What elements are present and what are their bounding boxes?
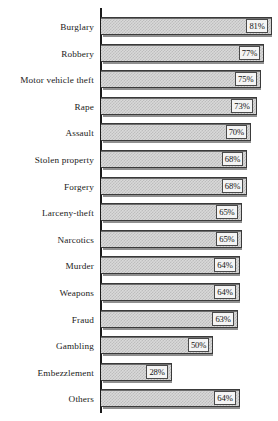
bar-row: Murder64% bbox=[0, 256, 278, 276]
category-label: Narcotics bbox=[57, 234, 94, 245]
category-label: Stolen property bbox=[35, 155, 94, 166]
bar-drop-shadow bbox=[103, 381, 172, 383]
category-label: Robbery bbox=[61, 48, 94, 59]
category-label: Murder bbox=[66, 261, 94, 272]
category-label: Larceny-theft bbox=[42, 208, 94, 219]
bar-value-label: 68% bbox=[222, 179, 243, 193]
category-label: Fraud bbox=[72, 314, 94, 325]
bar-drop-shadow bbox=[103, 168, 247, 170]
bar-row: Assault70% bbox=[0, 123, 278, 143]
bar-track: 81% bbox=[101, 17, 272, 35]
bar-track: 70% bbox=[101, 123, 251, 141]
bar-drop-shadow bbox=[103, 301, 240, 303]
category-label: Others bbox=[69, 394, 94, 405]
bar-track: 63% bbox=[101, 310, 238, 328]
bar-value-label: 70% bbox=[226, 125, 247, 139]
bar-row: Motor vehicle theft75% bbox=[0, 70, 278, 90]
bar-track: 77% bbox=[101, 44, 264, 62]
bar-track: 68% bbox=[101, 177, 247, 195]
bar-row: Gambling50% bbox=[0, 336, 278, 356]
bar-row: Weapons64% bbox=[0, 283, 278, 303]
bar-track: 64% bbox=[101, 283, 240, 301]
bar-drop-shadow bbox=[103, 62, 264, 64]
bar-value-label: 28% bbox=[146, 365, 167, 379]
bar-row: Embezzlement28% bbox=[0, 363, 278, 383]
bar-track: 64% bbox=[101, 389, 240, 407]
bar-track: 64% bbox=[101, 256, 240, 274]
category-label: Assault bbox=[65, 128, 94, 139]
bar-row: Stolen property68% bbox=[0, 150, 278, 170]
bar-drop-shadow bbox=[103, 407, 240, 409]
bar-value-label: 68% bbox=[222, 152, 243, 166]
bar-row: Narcotics65% bbox=[0, 230, 278, 250]
bar-row: Robbery77% bbox=[0, 44, 278, 64]
bar-drop-shadow bbox=[103, 115, 257, 117]
category-label: Motor vehicle theft bbox=[20, 75, 94, 86]
bar-value-label: 64% bbox=[214, 391, 235, 405]
horizontal-bar-chart: Burglary81%Robbery77%Motor vehicle theft… bbox=[0, 0, 278, 421]
bar-value-label: 73% bbox=[231, 99, 252, 113]
category-label: Weapons bbox=[60, 288, 95, 299]
bar-value-label: 63% bbox=[212, 312, 233, 326]
bar-drop-shadow bbox=[103, 35, 272, 37]
bar-value-label: 75% bbox=[235, 72, 256, 86]
bar-row: Fraud63% bbox=[0, 310, 278, 330]
category-label: Rape bbox=[75, 101, 94, 112]
bar-value-label: 81% bbox=[246, 19, 267, 33]
bar-value-label: 65% bbox=[216, 205, 237, 219]
bar-row: Larceny-theft65% bbox=[0, 203, 278, 223]
bar-value-label: 64% bbox=[214, 285, 235, 299]
category-label: Burglary bbox=[60, 22, 94, 33]
bar-track: 28% bbox=[101, 363, 172, 381]
bar-row: Burglary81% bbox=[0, 17, 278, 37]
bar-value-label: 50% bbox=[188, 338, 209, 352]
bar-row: Rape73% bbox=[0, 97, 278, 117]
bar-drop-shadow bbox=[103, 141, 251, 143]
bar-drop-shadow bbox=[103, 274, 240, 276]
category-label: Gambling bbox=[56, 341, 94, 352]
bar-drop-shadow bbox=[103, 221, 242, 223]
bar-value-label: 64% bbox=[214, 258, 235, 272]
bar-track: 50% bbox=[101, 336, 213, 354]
bar-track: 65% bbox=[101, 230, 242, 248]
category-label: Embezzlement bbox=[38, 367, 94, 378]
bar-row: Others64% bbox=[0, 389, 278, 409]
bar-drop-shadow bbox=[103, 248, 242, 250]
bar-track: 75% bbox=[101, 70, 261, 88]
bar-track: 65% bbox=[101, 203, 242, 221]
bar-drop-shadow bbox=[103, 195, 247, 197]
bar-track: 73% bbox=[101, 97, 257, 115]
bar-drop-shadow bbox=[103, 354, 213, 356]
bar-drop-shadow bbox=[103, 88, 261, 90]
category-label: Forgery bbox=[64, 181, 94, 192]
bar-drop-shadow bbox=[103, 328, 238, 330]
bar-value-label: 77% bbox=[239, 46, 260, 60]
bar-value-label: 65% bbox=[216, 232, 237, 246]
bar-track: 68% bbox=[101, 150, 247, 168]
bar-row: Forgery68% bbox=[0, 177, 278, 197]
